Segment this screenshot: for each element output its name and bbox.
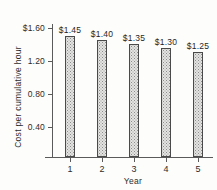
x-axis-title: Year (53, 176, 213, 186)
bar-value-label: $1.40 (91, 29, 113, 39)
y-tick-label: $1.60 (0, 23, 45, 33)
x-tick-label: 5 (183, 164, 213, 174)
x-tick-label: 3 (119, 164, 149, 174)
bar-group: $1.45 (55, 24, 85, 157)
x-tick-mark (166, 157, 167, 162)
bar-group: $1.25 (183, 24, 213, 157)
bar (193, 52, 203, 157)
y-tick-label: 0.40 (0, 122, 45, 132)
bar-group: $1.35 (119, 24, 149, 157)
bar-chart: Cost per cumulative hour $1.60 1.20 0.80… (0, 0, 217, 190)
x-tick-mark (134, 157, 135, 162)
plot-area: $1.45 $1.40 $1.35 $1.30 $1.25 (53, 24, 213, 157)
bar-value-label: $1.25 (187, 41, 209, 51)
x-tick-mark (102, 157, 103, 162)
x-tick-mark (198, 157, 199, 162)
x-tick-mark (70, 157, 71, 162)
bar-value-label: $1.45 (59, 25, 81, 35)
bar-value-label: $1.35 (123, 33, 145, 43)
x-tick-label: 1 (55, 164, 85, 174)
y-tick-label: 1.20 (0, 56, 45, 66)
bar-value-label: $1.30 (155, 37, 177, 47)
bar (65, 36, 75, 157)
bar-group: $1.40 (87, 24, 117, 157)
bar (97, 40, 107, 157)
bar (129, 44, 139, 157)
bar (161, 48, 171, 157)
x-tick-label: 4 (151, 164, 181, 174)
bar-group: $1.30 (151, 24, 181, 157)
y-tick-label: 0.80 (0, 89, 45, 99)
x-tick-label: 2 (87, 164, 117, 174)
